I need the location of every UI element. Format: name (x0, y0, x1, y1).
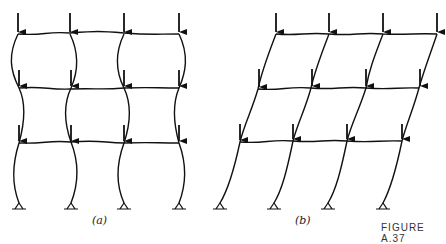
panel-label-b: (b) (295, 214, 311, 227)
panel-label-a: (a) (92, 214, 107, 227)
frame-a (11, 13, 186, 209)
frame-b (213, 13, 437, 209)
figure-caption: FIGURE A.37 (381, 222, 446, 244)
